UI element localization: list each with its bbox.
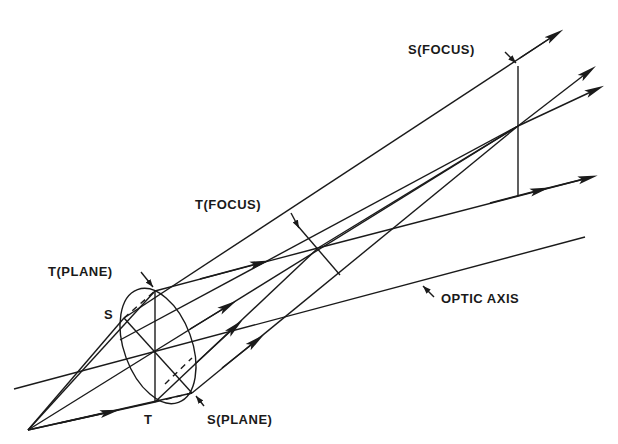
lens-ellipse <box>106 278 211 414</box>
ray-s-to-sfocus-top <box>124 35 555 318</box>
ray-tfocus-to-sfocus <box>318 126 518 248</box>
label-s-plane: S(PLANE) <box>207 412 272 427</box>
ray-source-to-center <box>28 351 155 430</box>
t-plane-pointer <box>141 272 153 287</box>
ray-source-to-top <box>28 291 155 430</box>
s-plane-pointer <box>196 396 204 406</box>
s-plane-line <box>124 318 192 393</box>
label-t-point: T <box>144 412 152 427</box>
ray-t-to-tfocus <box>155 248 318 402</box>
ray-source-to-s <box>28 318 124 430</box>
t-focus-pointer <box>291 213 299 228</box>
label-t-focus: T(FOCUS) <box>195 197 261 212</box>
s-focus-pointer <box>505 52 516 63</box>
label-t-plane: T(PLANE) <box>48 264 113 279</box>
optic-axis-pointer <box>423 286 434 297</box>
label-s-point: S <box>104 307 113 322</box>
astigmatism-diagram: S(FOCUS) T(FOCUS) T(PLANE) S T S(PLANE) … <box>0 0 618 444</box>
ray-after-sfocus-2 <box>518 90 595 126</box>
ray-after-sfocus-1 <box>518 72 588 126</box>
optic-axis-line <box>14 237 585 389</box>
label-s-focus: S(FOCUS) <box>408 42 475 57</box>
label-optic-axis: OPTIC AXIS <box>441 291 519 306</box>
